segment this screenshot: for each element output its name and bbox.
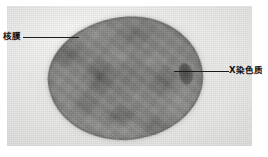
leader-line-x-chromatin — [174, 71, 229, 72]
micrograph-figure: 核膜 X染色质 — [0, 0, 268, 157]
micrograph-photo-panel — [7, 6, 252, 146]
label-nuclear-membrane: 核膜 — [3, 32, 21, 41]
label-x-chromatin: X染色质 — [229, 66, 263, 75]
leader-line-nuclear-membrane — [23, 37, 79, 38]
